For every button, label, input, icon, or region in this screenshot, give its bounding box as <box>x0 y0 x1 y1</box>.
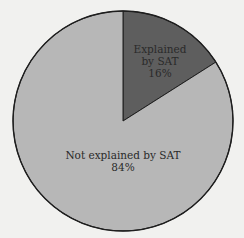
explained-label-line2: by SAT <box>141 55 178 67</box>
not-explained-percent: 84% <box>111 161 134 173</box>
pie-chart: Explained by SAT 16% Not explained by SA… <box>0 0 244 238</box>
explained-label-line1: Explained <box>134 43 187 55</box>
not-explained-label: Not explained by SAT <box>65 149 180 161</box>
pie-slices <box>13 11 233 231</box>
explained-percent: 16% <box>148 67 171 79</box>
